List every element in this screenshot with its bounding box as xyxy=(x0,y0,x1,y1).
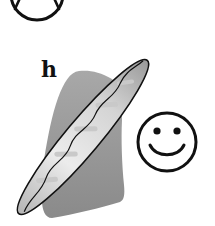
variable-label-h: h xyxy=(41,58,57,80)
diagram-svg xyxy=(0,0,215,226)
figure-canvas: h xyxy=(0,0,215,226)
smiling-face-icon xyxy=(138,113,196,171)
frowning-face-icon xyxy=(11,0,63,20)
